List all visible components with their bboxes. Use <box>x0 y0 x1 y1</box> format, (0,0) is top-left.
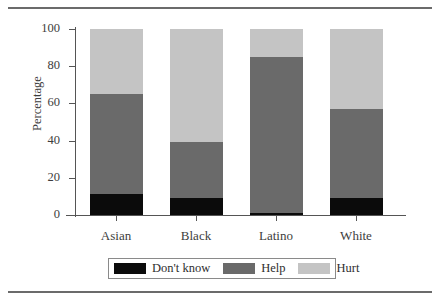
legend-swatch-icon <box>298 263 330 274</box>
y-tick-label: 80 <box>48 59 67 71</box>
legend[interactable]: Don't knowHelpHurt <box>108 258 336 279</box>
bar-segment-hurt[interactable] <box>250 29 303 57</box>
bar-asian[interactable] <box>90 29 143 215</box>
bar-segment-help[interactable] <box>250 57 303 213</box>
y-tick-label: 100 <box>41 22 66 34</box>
y-tick-mark <box>69 103 75 104</box>
bar-segment-hurt[interactable] <box>90 29 143 94</box>
legend-swatch-icon <box>223 263 255 274</box>
legend-swatch-icon <box>114 263 146 274</box>
bar-segment-help[interactable] <box>170 142 223 199</box>
x-tick-label-white: White <box>306 228 406 243</box>
bar-segment-don-t-know[interactable] <box>330 198 383 215</box>
legend-item-help[interactable]: Help <box>223 262 285 275</box>
x-tick-mark <box>196 216 197 221</box>
y-tick-label: 20 <box>48 171 67 183</box>
plot-area <box>76 29 396 215</box>
bar-latino[interactable] <box>250 29 303 215</box>
legend-label: Don't know <box>152 262 210 275</box>
legend-label: Help <box>261 262 285 275</box>
y-tick-label: 0 <box>54 208 66 220</box>
bar-white[interactable] <box>330 29 383 215</box>
bar-segment-don-t-know[interactable] <box>170 198 223 215</box>
bar-segment-hurt[interactable] <box>170 29 223 142</box>
y-tick-label: 60 <box>48 96 67 108</box>
legend-item-hurt[interactable]: Hurt <box>298 262 359 275</box>
y-tick-mark <box>69 215 75 216</box>
x-tick-mark <box>276 216 277 221</box>
bar-segment-help[interactable] <box>330 109 383 198</box>
legend-label: Hurt <box>336 262 359 275</box>
y-tick-mark <box>69 141 75 142</box>
legend-item-don-t-know[interactable]: Don't know <box>114 262 210 275</box>
bar-black[interactable] <box>170 29 223 215</box>
bottom-rule <box>8 291 432 293</box>
x-tick-mark <box>356 216 357 221</box>
y-axis-title: Percentage <box>30 59 45 149</box>
x-tick-mark <box>116 216 117 221</box>
figure: Percentage 020406080100 AsianBlackLatino… <box>0 0 440 301</box>
bar-segment-don-t-know[interactable] <box>250 213 303 215</box>
y-tick-label: 40 <box>48 134 67 146</box>
y-tick-mark <box>69 29 75 30</box>
bar-segment-help[interactable] <box>90 94 143 194</box>
bar-segment-hurt[interactable] <box>330 29 383 109</box>
x-axis-line <box>66 215 406 216</box>
top-rule <box>8 7 432 9</box>
y-tick-mark <box>69 66 75 67</box>
y-tick-mark <box>69 178 75 179</box>
bar-segment-don-t-know[interactable] <box>90 194 143 215</box>
